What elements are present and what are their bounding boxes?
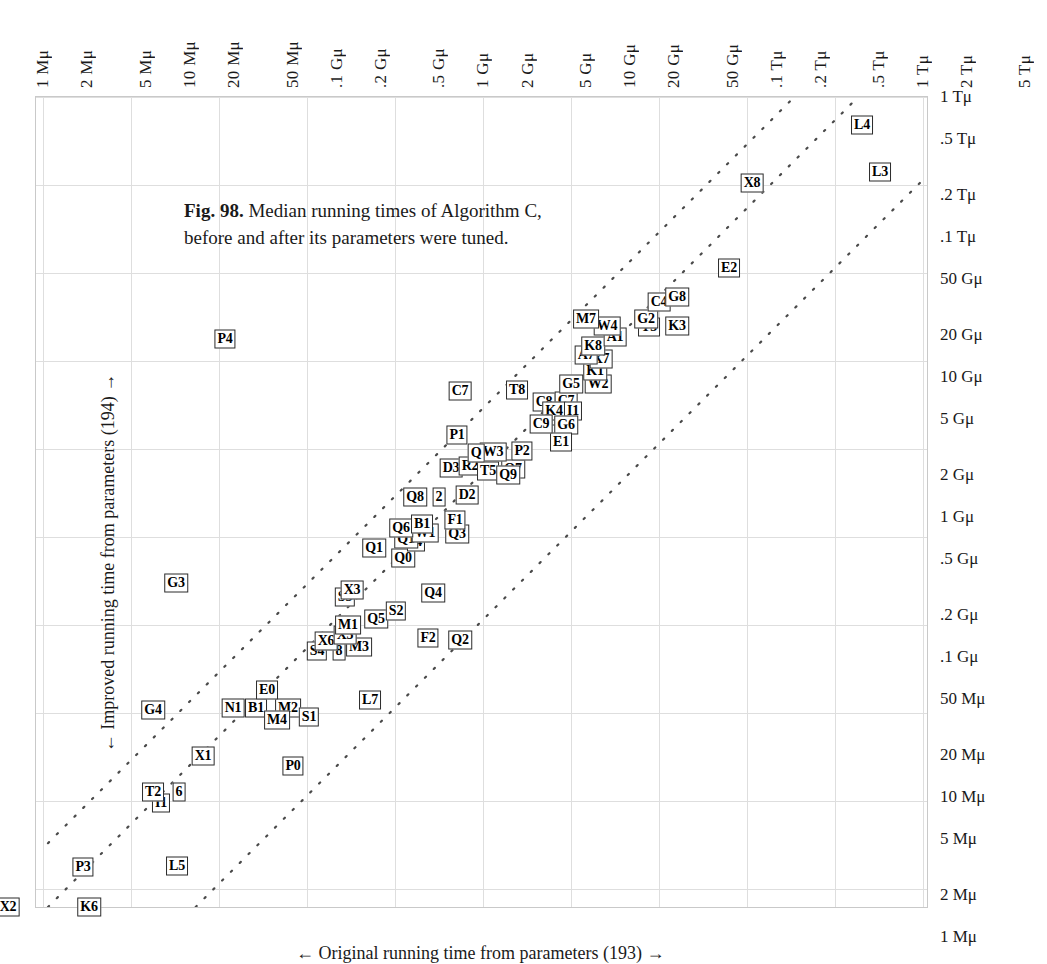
x-tick-label-6: .1 Gμ [327,8,347,88]
data-point-label: G5 [559,375,583,394]
y-tick-label-0: 1 Tμ [940,87,1040,107]
data-point-label: Q1 [362,539,386,558]
y-tick-label-2: .2 Tμ [940,185,1040,205]
data-point-label: X1 [192,747,215,766]
data-point-label: M4 [264,711,290,730]
data-point-label: L7 [359,691,381,710]
y-tick-label-11: .2 Gμ [940,605,1040,625]
y-tick-label-5: 20 Gμ [940,325,1040,345]
x-tick-label-2: 5 Mμ [136,8,156,88]
y-tick-label-9: 1 Gμ [940,507,1040,527]
x-tick-label-14: 50 Gμ [723,8,743,88]
x-tick-label-10: 2 Gμ [518,8,538,88]
y-tick-label-10: .5 Gμ [940,549,1040,569]
data-point-label: 6 [173,783,186,802]
gridline-horizontal-3 [36,361,927,362]
gridline-horizontal-2 [36,273,927,274]
data-point-label: Q9 [496,466,520,485]
data-point-label: E1 [550,433,572,452]
data-point-label: G2 [634,310,658,329]
data-point-label: X3 [341,581,364,600]
y-tick-label-14: 20 Mμ [940,745,1040,765]
data-point-label: M7 [573,310,599,329]
data-point-label: B1 [411,515,433,534]
data-point-label: F1 [444,511,465,530]
data-point-label: X2 [0,898,19,917]
y-tick-label-13: 50 Mμ [940,689,1040,709]
data-point-label: K6 [77,898,101,917]
y-axis-title: ← Improved running time from parameters … [98,283,119,843]
data-point-label: C7 [449,382,472,401]
data-point-label: G4 [141,701,165,720]
data-point-label: T2 [142,783,164,802]
x-tick-label-20: 5 Tμ [1015,8,1035,88]
data-point-label: M1 [335,616,361,635]
x-tick-label-18: 1 Tμ [913,8,933,88]
data-point-label: Q [468,444,485,463]
gridline-vertical-0 [43,97,44,907]
data-point-label: S2 [386,602,406,621]
y-tick-label-17: 2 Mμ [940,885,1040,905]
y-tick-label-16: 5 Mμ [940,829,1040,849]
x-tick-label-0: 1 Mμ [33,8,53,88]
figure-caption: Fig. 98. Median running times of Algorit… [184,198,574,252]
data-point-label: N1 [222,699,245,718]
data-point-label: P1 [446,426,467,445]
gridline-vertical-10 [923,97,924,907]
data-point-label: E0 [256,681,278,700]
gridline-vertical-9 [835,97,836,907]
gridline-vertical-7 [659,97,660,907]
y-tick-label-6: 10 Gμ [940,367,1040,387]
x-tick-label-3: 10 Mμ [180,8,200,88]
x-tick-label-5: 50 Mμ [283,8,303,88]
y-tick-label-8: 2 Gμ [940,465,1040,485]
gridline-horizontal-0 [36,97,927,98]
gridline-horizontal-9 [36,889,927,890]
data-point-label: P0 [282,757,303,776]
data-point-label: Q2 [448,631,472,650]
data-point-label: Q5 [364,610,388,629]
data-point-label: Q8 [403,488,427,507]
data-point-label: Q4 [421,584,445,603]
data-point-label: D2 [456,486,479,505]
y-tick-label-12: .1 Gμ [940,647,1040,667]
data-point-label: 2 [433,488,446,507]
data-point-label: S1 [299,708,319,727]
data-point-label: F2 [417,629,438,648]
data-point-label: P4 [214,330,235,349]
x-tick-label-11: 5 Gμ [576,8,596,88]
x-tick-label-15: .1 Tμ [767,8,787,88]
data-point-label: P2 [511,442,532,461]
data-point-label: L3 [869,163,891,182]
x-tick-label-8: .5 Gμ [429,8,449,88]
x-tick-label-9: 1 Gμ [473,8,493,88]
data-point-label: G3 [164,574,188,593]
x-tick-label-13: 20 Gμ [664,8,684,88]
data-point-label: K3 [665,317,689,336]
gridline-vertical-8 [747,97,748,907]
data-point-label: T8 [506,381,528,400]
gridline-horizontal-1 [36,185,927,186]
y-tick-label-3: .1 Tμ [940,227,1040,247]
lower-diagonal-line [196,176,927,907]
x-tick-label-19: 2 Tμ [957,8,977,88]
data-point-label: P3 [72,858,93,877]
caption-label: Fig. 98. [184,200,244,221]
x-tick-label-16: .2 Tμ [811,8,831,88]
x-axis-title: ← Original running time from parameters … [296,943,664,964]
y-tick-label-15: 10 Mμ [940,787,1040,807]
gridline-horizontal-7 [36,713,927,714]
gridline-horizontal-6 [36,625,927,626]
data-point-label: L4 [851,116,873,135]
x-tick-label-17: .5 Tμ [869,8,889,88]
x-tick-label-4: 20 Mμ [224,8,244,88]
data-point-label: X8 [741,174,764,193]
data-point-label: L5 [166,857,188,876]
x-tick-label-12: 10 Gμ [620,8,640,88]
plot-area: X2K6P3L5I1T26X1P0G4N1B1M2E0M4S1L7S48M3X6… [35,96,928,908]
gridline-horizontal-5 [36,537,927,538]
y-tick-label-18: 1 Mμ [940,927,1040,947]
y-tick-label-1: .5 Tμ [940,129,1040,149]
data-point-label: Q6 [389,519,413,538]
